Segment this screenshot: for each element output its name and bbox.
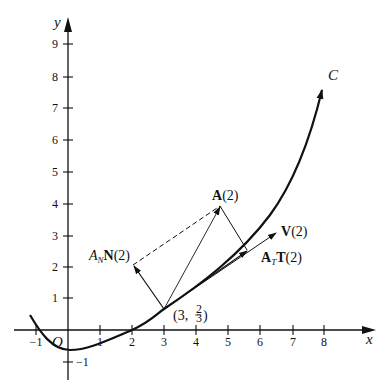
y-tick-label: 4	[52, 197, 58, 211]
y-axis-arrow-icon	[64, 17, 72, 32]
x-tick-label: 7	[290, 335, 296, 349]
normal-component-vector	[134, 266, 164, 309]
y-tick-label: 6	[52, 133, 58, 147]
point-y-fraction: 2 3 )	[195, 302, 208, 325]
acceleration-vector	[164, 207, 220, 309]
y-tick-label: 1	[52, 291, 58, 305]
velocity-label: V(2)	[281, 224, 308, 240]
svg-text:3: 3	[196, 311, 202, 325]
x-tick-label: 4	[193, 335, 199, 349]
y-tick-label: 8	[52, 70, 58, 84]
velocity-vector	[164, 233, 276, 309]
y-tick-label: 9	[52, 37, 58, 51]
y-tick-label: 2	[52, 260, 58, 274]
point-label: (3,	[173, 308, 188, 324]
normal-label: ANN(2)	[88, 248, 130, 265]
y-tick-label: −1	[76, 355, 89, 369]
y-axis: −1 1 2 3 4 5 6 7 8 9 y	[52, 14, 89, 380]
x-tick-label: 5	[225, 335, 231, 349]
x-tick-label: 2	[129, 335, 135, 349]
x-tick-label: 8	[321, 335, 327, 349]
acceleration-label: A(2)	[212, 188, 239, 204]
tangential-label: ATT(2)	[261, 250, 302, 267]
x-tick-label: −1	[30, 335, 43, 349]
curve-label: C	[328, 67, 339, 83]
x-tick-label: 3	[161, 335, 167, 349]
tangent-projection-line	[220, 206, 247, 250]
y-tick-label: 5	[52, 165, 58, 179]
dashed-normal-projection	[133, 206, 220, 265]
y-axis-label: y	[52, 14, 61, 30]
svg-text:): )	[203, 308, 208, 324]
x-tick-label: 6	[257, 335, 263, 349]
y-tick-label: 3	[52, 229, 58, 243]
x-axis-label: x	[365, 331, 373, 347]
curve-acceleration-diagram: −1 1 2 3 4 5 6 7 8 x −1 1 2 3 4 5 6	[0, 0, 386, 392]
y-tick-label: 7	[52, 101, 58, 115]
